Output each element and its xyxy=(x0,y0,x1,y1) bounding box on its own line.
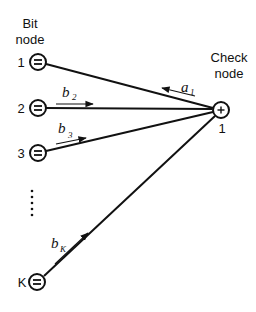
message-subscript: K xyxy=(59,244,67,254)
factor-graph-diagram: Bit node Check node 1 2 3 K 1 xyxy=(0,0,256,312)
equality-node-icon xyxy=(29,274,45,290)
message-a1: a 1 xyxy=(162,79,195,97)
equality-node-icon xyxy=(30,54,46,70)
equality-node-icon xyxy=(30,145,46,161)
check-node-1: 1 xyxy=(213,102,229,136)
equality-node-icon xyxy=(30,100,46,116)
message-label: b xyxy=(51,235,59,251)
edge-K xyxy=(44,116,215,276)
bit-node-header-line1: Bit xyxy=(22,16,38,31)
check-node-header-line2: node xyxy=(215,66,244,81)
message-subscript: 2 xyxy=(72,92,77,102)
bit-node-index: K xyxy=(18,275,27,290)
message-label: a xyxy=(181,79,189,95)
message-label: b xyxy=(62,84,70,100)
check-node-index: 1 xyxy=(218,121,225,136)
bit-node-index: 1 xyxy=(17,55,24,70)
bit-node-1: 1 xyxy=(17,54,46,70)
bit-node-index: 2 xyxy=(17,101,24,116)
edge-2 xyxy=(46,108,212,109)
bit-node-header-line2: node xyxy=(16,32,45,47)
vertical-ellipsis-icon xyxy=(31,190,34,217)
bit-node-K: K xyxy=(18,274,45,290)
bit-node-2: 2 xyxy=(17,100,46,116)
bit-node-index: 3 xyxy=(17,146,24,161)
message-bK: b K xyxy=(51,233,88,264)
message-b3: b 3 xyxy=(56,120,86,144)
message-label: b xyxy=(58,120,66,136)
message-b2: b 2 xyxy=(56,84,93,104)
bit-node-3: 3 xyxy=(17,145,46,161)
check-node-header-line1: Check xyxy=(211,50,248,65)
message-subscript: 3 xyxy=(67,130,73,140)
message-subscript: 1 xyxy=(190,87,195,97)
